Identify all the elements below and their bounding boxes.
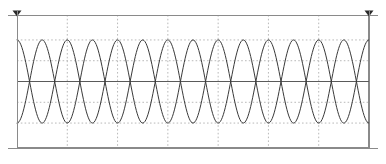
plot-canvas <box>0 0 386 164</box>
waveform-chart <box>0 0 386 164</box>
